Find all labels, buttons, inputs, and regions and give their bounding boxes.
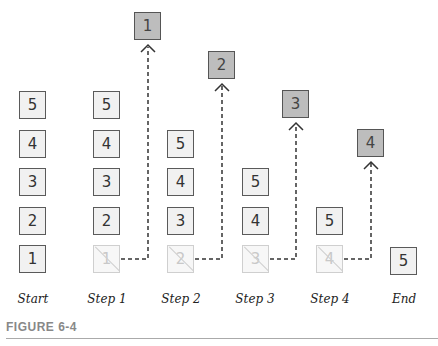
removed-item: 1 [93, 245, 120, 273]
column-label-end: End [374, 292, 434, 306]
removed-item: 4 [316, 245, 343, 273]
arrowhead-icon [141, 45, 155, 52]
stack-item: 4 [19, 130, 46, 158]
stack-item: 4 [93, 130, 120, 158]
stack-item: 3 [19, 168, 46, 196]
popped-item: 1 [134, 12, 161, 40]
column-label-step-1: Step 1 [77, 292, 137, 306]
popped-item: 3 [282, 90, 309, 118]
stack-item: 3 [167, 207, 194, 235]
column-label-start: Start [3, 292, 63, 306]
stack-item: 4 [242, 207, 269, 235]
dashed-arrow-2 [195, 85, 222, 259]
stack-item: 4 [167, 168, 194, 196]
removed-item: 2 [167, 245, 194, 273]
stack-item: 5 [316, 207, 343, 235]
stack-item: 1 [19, 245, 46, 273]
stack-item: 3 [93, 168, 120, 196]
stack-item: 5 [19, 91, 46, 119]
dashed-arrow-3 [270, 124, 296, 259]
popped-item: 4 [357, 129, 384, 157]
caption-rule [6, 338, 438, 339]
column-label-step-4: Step 4 [300, 292, 360, 306]
dashed-arrow-1 [121, 47, 148, 259]
stack-item: 5 [167, 130, 194, 158]
popped-item: 2 [208, 51, 235, 79]
stack-item: 2 [19, 207, 46, 235]
column-label-step-3: Step 3 [225, 292, 285, 306]
figure-caption: FIGURE 6-4 [6, 320, 77, 334]
column-label-step-2: Step 2 [151, 292, 211, 306]
stack-item: 5 [242, 168, 269, 196]
dashed-arrow-4 [344, 163, 371, 259]
stack-item: 5 [390, 247, 417, 275]
stack-item: 2 [93, 207, 120, 235]
removed-item: 3 [242, 245, 269, 273]
stack-item: 5 [93, 91, 120, 119]
